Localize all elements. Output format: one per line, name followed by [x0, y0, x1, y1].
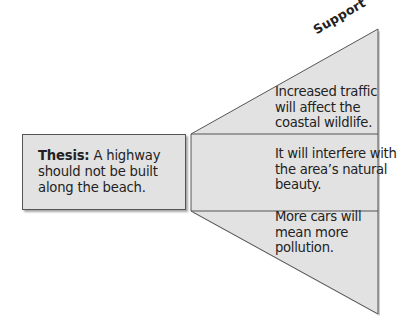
support-point-3: More cars will mean more pollution.	[275, 209, 398, 256]
thesis-lead: Thesis:	[38, 148, 89, 163]
support-point-1: Increased traffic will affect the coasta…	[275, 84, 398, 131]
support-point-2: It will interfere with the area’s natura…	[275, 146, 398, 193]
thesis-statement: Thesis: A highway should not be built al…	[38, 148, 188, 196]
